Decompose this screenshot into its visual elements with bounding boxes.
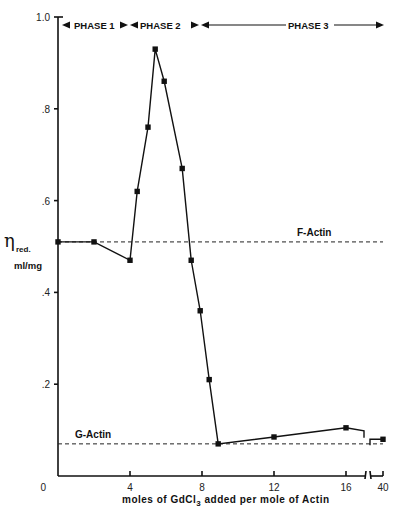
x-axis-title-prefix: moles of GdCl [122,494,196,505]
phase-1-right-arrow [120,22,128,29]
x-tick-label: 12 [268,482,280,493]
y-axis-unit: ml/mg [14,260,42,271]
data-point-marker [145,124,150,129]
axis-labels: η red. ml/mg moles of GdCl3 added per mo… [4,230,330,508]
data-point-marker [343,425,348,430]
x-axis-break-mark [365,471,366,479]
f-actin-label: F-Actin [297,227,331,238]
x-axis-title: moles of GdCl3 added per mole of Actin [122,494,330,508]
data-point-marker [271,434,276,439]
x-axis-break-mark [370,471,371,479]
data-point-marker [91,239,96,244]
x-axis-title-suffix: added per mole of Actin [201,494,329,505]
data-point-marker [127,258,132,263]
data-point-marker [162,79,167,84]
data-point-marker [189,258,194,263]
data-point-marker [198,308,203,313]
reference-lines: F-ActinG-Actin [58,227,383,444]
data-point-marker [216,441,221,446]
data-point-marker [207,377,212,382]
y-tick-label: .6 [42,196,51,207]
series-line [58,49,346,444]
y-tick-label: .2 [42,379,51,390]
y-tick-label: .8 [42,104,51,115]
data-point-marker [135,189,140,194]
data-point-marker [180,166,185,171]
viscosity-chart: 0.2.4.6.81.048121640 F-ActinG-Actin PHAS… [0,0,401,521]
phase-1-label: PHASE 1 [74,20,115,31]
x-tick-label: 8 [199,482,205,493]
data-series [55,46,385,446]
axes: 0.2.4.6.81.048121640 [36,12,389,493]
y-tick-label: 1.0 [36,12,50,23]
phase-3-label: PHASE 3 [288,20,329,31]
phase-1-left-arrow [62,22,70,29]
data-point-marker [380,437,385,442]
g-actin-label: G-Actin [75,429,111,440]
y-axis-symbol: η [4,230,15,251]
phase-2-label: PHASE 2 [140,20,181,31]
data-point-marker [55,239,60,244]
phase-2-right-arrow [191,22,199,29]
phase-2-left-arrow [130,22,138,29]
y-tick-label: 0 [40,482,46,493]
x-tick-label: 4 [127,482,133,493]
series-break-segment [346,428,364,438]
y-axis-subscript: red. [16,245,31,254]
x-tick-label: 16 [340,482,352,493]
phase-annotations: PHASE 1PHASE 2PHASE 3 [62,20,384,31]
x-tick-label: 40 [377,482,389,493]
y-tick-label: .4 [42,287,51,298]
data-point-marker [153,46,158,51]
